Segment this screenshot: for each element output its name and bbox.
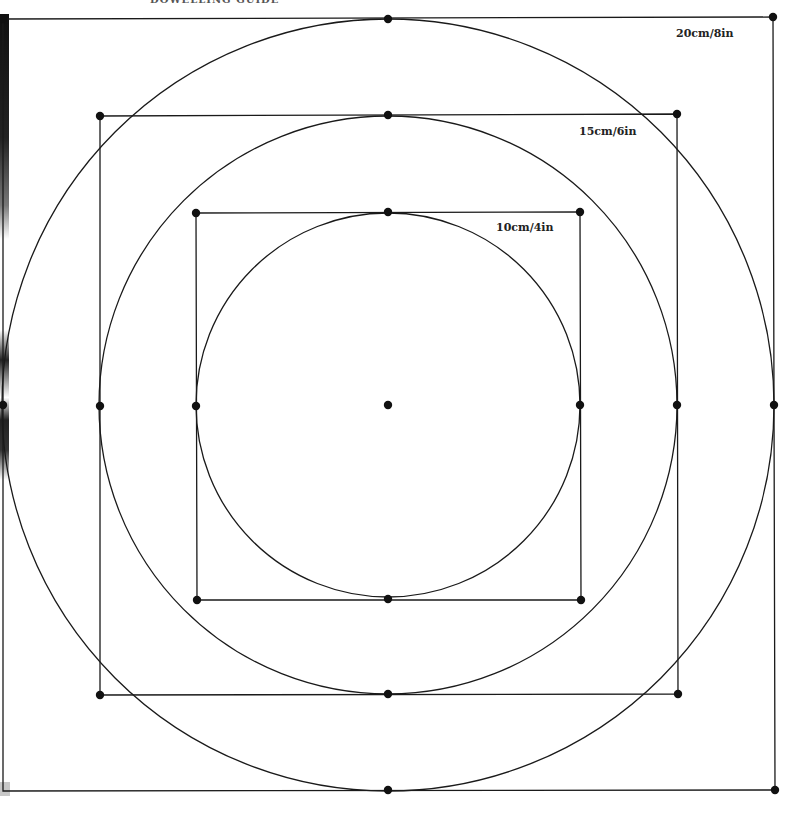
marker-dot	[192, 402, 200, 410]
marker-dot	[384, 786, 392, 794]
marker-dot	[96, 691, 104, 699]
marker-dot	[576, 208, 584, 216]
marker-dot	[0, 15, 7, 23]
marker-dot	[384, 111, 392, 119]
label-outer: 20cm/8in	[676, 27, 734, 40]
marker-dot	[770, 401, 778, 409]
marker-dot	[771, 786, 779, 794]
marker-dot	[673, 110, 681, 118]
marker-dot	[193, 596, 201, 604]
dowelling-guide-diagram: DOWELLING GUIDE 20cm/8in 15cm/6in 10cm/4…	[0, 0, 785, 814]
marker-dot	[674, 690, 682, 698]
marker-dot	[576, 401, 584, 409]
marker-dot	[384, 690, 392, 698]
label-middle: 15cm/6in	[579, 125, 637, 138]
marker-dot	[384, 15, 392, 23]
marker-dot	[96, 402, 104, 410]
marker-dot	[0, 401, 7, 409]
marker-dot	[192, 209, 200, 217]
label-inner: 10cm/4in	[496, 221, 554, 234]
guide-labels: 20cm/8in 15cm/6in 10cm/4in	[496, 27, 734, 234]
marker-dot	[769, 13, 777, 21]
marker-dot	[577, 596, 585, 604]
guide-canvas: 20cm/8in 15cm/6in 10cm/4in	[0, 0, 785, 814]
marker-dot	[673, 401, 681, 409]
marker-dot	[384, 595, 392, 603]
center-dot	[384, 401, 392, 409]
marker-dot	[384, 208, 392, 216]
marker-dot	[96, 112, 104, 120]
